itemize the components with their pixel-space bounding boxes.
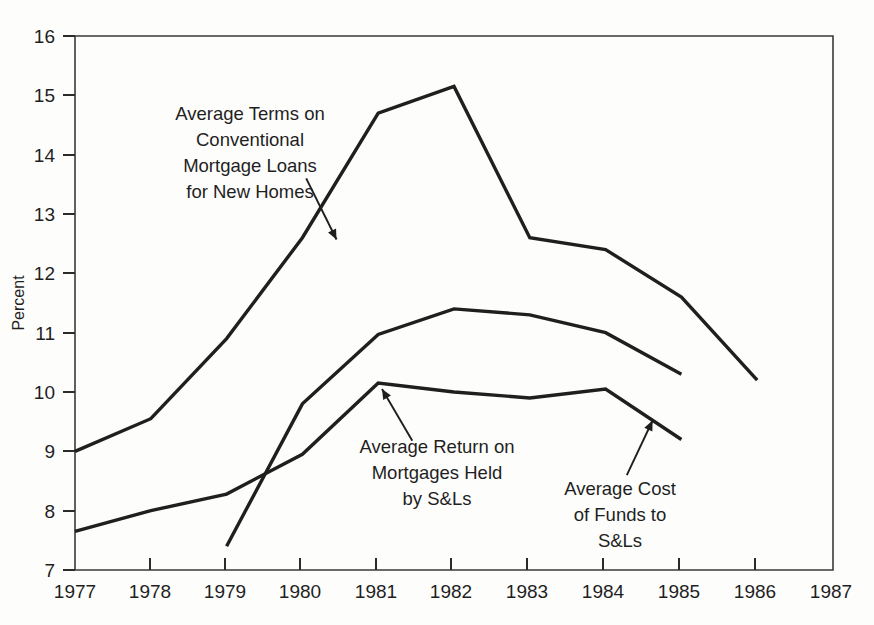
x-tick-label-1985: 1985	[658, 581, 700, 602]
x-tick-label-1983: 1983	[506, 581, 548, 602]
annotation-terms-line-1: Average Terms on	[175, 103, 324, 124]
annotation-terms-line-3: Mortgage Loans	[183, 155, 317, 176]
annotation-return-line-2: Mortgages Held	[372, 462, 503, 483]
y-tick-label-16: 16	[34, 26, 55, 47]
x-tick-label-1979: 1979	[204, 581, 246, 602]
annotation-cost-line-2: of Funds to	[574, 504, 667, 525]
annotation-arrow-cost	[627, 420, 653, 475]
x-axis-tick-labels: 1977 1978 1979 1980 1981 1982 1983 1984 …	[54, 581, 852, 602]
x-tick-label-1977: 1977	[54, 581, 96, 602]
annotation-terms: Average Terms on Conventional Mortgage L…	[175, 103, 324, 202]
annotation-cost: Average Cost of Funds to S&Ls	[564, 478, 676, 551]
annotation-terms-line-2: Conventional	[196, 129, 304, 150]
annotation-return-line-3: by S&Ls	[403, 488, 472, 509]
y-tick-label-15: 15	[34, 85, 55, 106]
line-chart: 16 15 14 13 12 11 10 9 8 7 Percent	[0, 0, 874, 625]
annotation-cost-line-1: Average Cost	[564, 478, 676, 499]
chart-container: 16 15 14 13 12 11 10 9 8 7 Percent	[0, 0, 874, 625]
y-tick-label-11: 11	[35, 323, 55, 344]
annotation-return: Average Return on Mortgages Held by S&Ls	[360, 436, 515, 509]
x-tick-label-1980: 1980	[279, 581, 321, 602]
x-tick-label-1978: 1978	[129, 581, 171, 602]
y-tick-label-13: 13	[34, 204, 55, 225]
y-axis-tick-labels: 16 15 14 13 12 11 10 9 8 7	[34, 26, 56, 581]
x-axis-ticks	[150, 558, 755, 570]
y-tick-label-8: 8	[44, 501, 55, 522]
y-tick-label-12: 12	[34, 263, 55, 284]
y-axis-title: Percent	[10, 275, 27, 331]
annotation-return-line-1: Average Return on	[360, 436, 515, 457]
series-line-mortgage-terms	[75, 86, 757, 451]
y-tick-label-9: 9	[44, 441, 55, 462]
x-tick-label-1981: 1981	[355, 581, 397, 602]
annotation-arrows	[306, 178, 652, 475]
y-tick-label-14: 14	[34, 145, 56, 166]
x-tick-label-1982: 1982	[430, 581, 472, 602]
x-tick-label-1987: 1987	[810, 581, 852, 602]
annotation-terms-line-4: for New Homes	[186, 181, 313, 202]
y-tick-label-10: 10	[34, 382, 55, 403]
annotation-arrow-return	[382, 389, 412, 441]
x-tick-label-1984: 1984	[582, 581, 625, 602]
y-tick-label-7: 7	[44, 560, 55, 581]
y-axis-ticks	[63, 36, 75, 570]
x-tick-label-1986: 1986	[734, 581, 776, 602]
annotation-cost-line-3: S&Ls	[598, 530, 642, 551]
